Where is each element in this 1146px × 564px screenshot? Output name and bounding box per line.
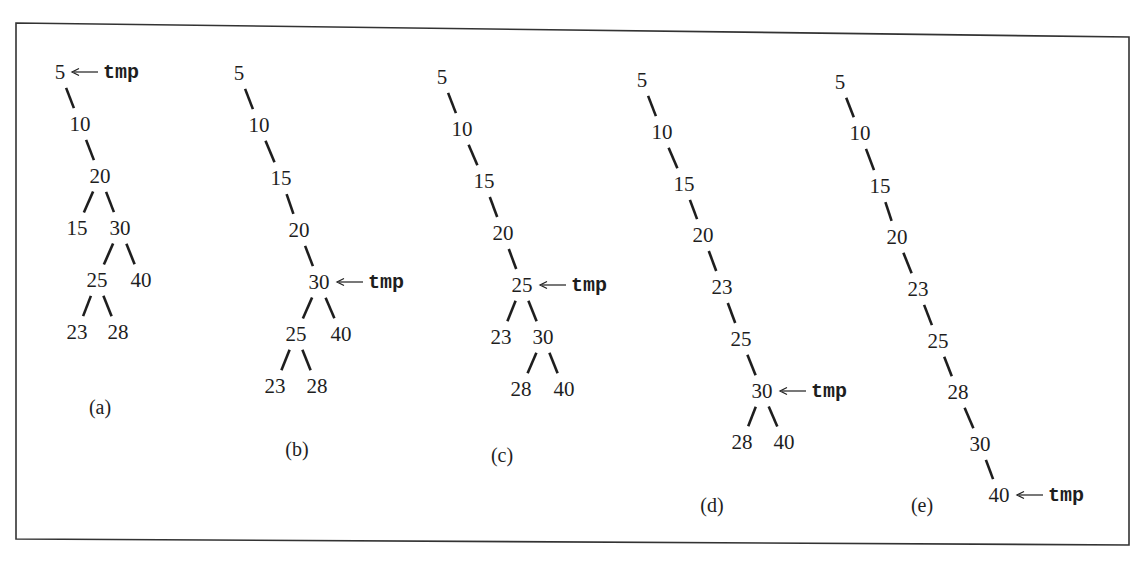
tree-edge xyxy=(83,296,91,316)
tree-panel-b: 51015203025402328tmp(b) xyxy=(234,61,404,461)
tree-node: 10 xyxy=(652,120,673,144)
tree-node: 23 xyxy=(712,275,733,299)
tree-edge xyxy=(924,305,932,325)
panel-caption: (d) xyxy=(700,494,723,517)
tree-edge xyxy=(287,194,294,214)
tmp-label: tmp xyxy=(103,61,139,84)
tree-node: 15 xyxy=(674,172,695,196)
tree-edge xyxy=(86,140,94,160)
tree-node: 28 xyxy=(948,380,969,404)
tmp-pointer: tmp xyxy=(1017,484,1084,507)
tree-edge xyxy=(690,200,697,219)
tree-edge xyxy=(903,253,911,273)
tree-node: 30 xyxy=(970,432,991,456)
tree-edge xyxy=(528,353,537,374)
tmp-pointer: tmp xyxy=(540,274,607,297)
tree-node: 15 xyxy=(474,169,495,193)
tree-node: 30 xyxy=(752,379,773,403)
tree-panel-c: 51015202523302840tmp(c) xyxy=(437,65,607,467)
tree-edge xyxy=(303,298,312,319)
tree-node: 25 xyxy=(731,327,752,351)
tree-node: 25 xyxy=(512,273,533,297)
tree-node: 5 xyxy=(55,60,66,84)
tree-node: 40 xyxy=(131,268,152,292)
panel-caption: (a) xyxy=(89,396,111,419)
tmp-label: tmp xyxy=(811,380,847,403)
tmp-label: tmp xyxy=(1048,484,1084,507)
tree-node: 10 xyxy=(249,113,270,137)
tree-edge xyxy=(448,93,456,113)
tree-edge xyxy=(305,246,313,266)
tmp-pointer: tmp xyxy=(780,380,847,403)
tree-node: 15 xyxy=(271,166,292,190)
tree-node: 28 xyxy=(732,430,753,454)
tree-node: 28 xyxy=(108,320,129,344)
figure-canvas: 51020153025402328tmp(a)51015203025402328… xyxy=(0,0,1146,564)
tree-panel-e: 51015202325283040tmp(e) xyxy=(835,70,1084,517)
tree-edge xyxy=(648,96,656,116)
tree-node: 25 xyxy=(286,322,307,346)
tree-edge xyxy=(245,89,253,109)
tmp-label: tmp xyxy=(571,274,607,297)
tree-node: 40 xyxy=(989,483,1010,507)
tree-edge xyxy=(669,148,678,169)
tree-node: 10 xyxy=(70,112,91,136)
tree-edge xyxy=(528,301,536,321)
tmp-label: tmp xyxy=(368,271,404,294)
tree-edge xyxy=(747,355,755,375)
tree-node: 40 xyxy=(774,430,795,454)
tree-edge xyxy=(866,149,874,170)
tree-edge xyxy=(281,350,289,370)
tree-edge xyxy=(549,353,557,373)
tree-edge xyxy=(748,407,756,426)
panel-caption: (c) xyxy=(491,444,513,467)
tree-edge xyxy=(302,350,310,370)
tree-node: 5 xyxy=(835,70,846,94)
tree-rotation-figure: 51020153025402328tmp(a)51015203025402328… xyxy=(0,0,1146,564)
tree-edge xyxy=(103,296,111,316)
tree-edge xyxy=(84,192,93,213)
tree-node: 5 xyxy=(437,65,448,89)
tree-edge xyxy=(728,303,735,323)
tree-node: 20 xyxy=(887,225,908,249)
tree-node: 30 xyxy=(110,216,131,240)
panel-caption: (e) xyxy=(911,494,933,517)
tree-node: 23 xyxy=(265,374,286,398)
tree-node: 40 xyxy=(331,322,352,346)
panel-caption: (b) xyxy=(285,438,308,461)
tree-edge xyxy=(846,98,854,117)
tree-edge xyxy=(469,145,478,166)
tree-node: 5 xyxy=(234,61,245,85)
tree-edge xyxy=(885,202,891,221)
tree-edge xyxy=(944,357,952,376)
tree-node: 25 xyxy=(928,329,949,353)
tree-node: 20 xyxy=(289,218,310,242)
tree-node: 10 xyxy=(850,121,871,145)
tree-node: 20 xyxy=(90,164,111,188)
tree-node: 40 xyxy=(554,377,575,401)
tmp-pointer: tmp xyxy=(337,271,404,294)
tree-node: 20 xyxy=(693,223,714,247)
tree-node: 23 xyxy=(67,320,88,344)
tree-edge xyxy=(986,460,993,479)
tree-edge xyxy=(769,407,778,427)
tree-edge xyxy=(490,197,497,217)
tree-node: 28 xyxy=(307,374,328,398)
tree-node: 23 xyxy=(908,277,929,301)
tree-edge xyxy=(126,244,134,264)
panels: 51020153025402328tmp(a)51015203025402328… xyxy=(55,60,1084,517)
tree-edge xyxy=(965,408,974,429)
tmp-pointer: tmp xyxy=(72,61,139,84)
tree-node: 25 xyxy=(87,268,108,292)
tree-node: 15 xyxy=(67,216,88,240)
tree-edge xyxy=(106,192,114,212)
tree-node: 10 xyxy=(452,117,473,141)
tree-edge xyxy=(266,141,275,163)
tree-node: 20 xyxy=(493,221,514,245)
tree-edge xyxy=(104,244,113,265)
tree-node: 15 xyxy=(870,174,891,198)
tree-node: 28 xyxy=(511,377,532,401)
tree-edge xyxy=(507,301,515,321)
tree-node: 30 xyxy=(309,270,330,294)
tree-panel-a: 51020153025402328tmp(a) xyxy=(55,60,152,419)
